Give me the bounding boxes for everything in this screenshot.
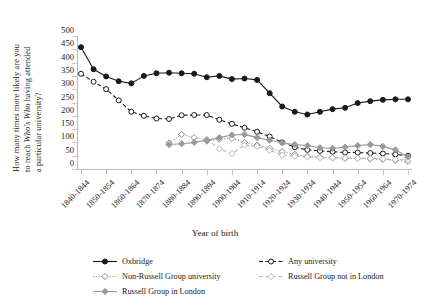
data-point-marker [254,135,260,141]
data-point-marker [367,155,373,161]
legend-key-icon [258,256,284,267]
data-point-marker [154,116,159,121]
data-point-marker [343,105,348,110]
data-point-marker [305,112,310,117]
data-point-marker [204,75,209,80]
data-point-marker [192,71,197,76]
data-point-marker [342,144,348,150]
data-point-marker [104,74,109,79]
data-point-marker [179,131,185,137]
data-point-marker [255,77,260,82]
data-point-marker [179,141,185,147]
legend-item[interactable]: Russell Group in London [92,286,205,297]
series-4 [166,131,411,160]
data-point-marker [141,113,146,118]
legend-item-label: Any university [288,257,337,266]
data-point-marker [317,154,323,160]
data-point-marker [392,147,398,153]
data-point-marker [380,143,386,149]
data-point-marker [355,150,360,155]
line-chart: How many times more likely are you to re… [0,0,430,302]
data-point-marker [102,288,108,294]
data-point-marker [304,142,310,148]
data-point-marker [129,81,134,86]
legend-item-label: Russell Group in London [122,287,205,296]
data-point-marker [154,71,159,76]
data-point-marker [268,273,274,279]
data-point-marker [179,71,184,76]
data-point-marker [380,156,386,162]
y-axis-title-line-2-pre: to reach [23,142,32,172]
data-point-marker [393,97,398,102]
legend-item[interactable]: Any university [258,256,337,267]
data-point-marker [91,79,96,84]
plot-area [78,36,411,169]
data-point-marker [368,99,373,104]
legend-item[interactable]: Non-Russell Group university [92,271,221,282]
data-point-marker [267,91,272,96]
data-point-marker [242,76,247,81]
data-point-marker [204,113,209,118]
legend-key-icon [92,256,118,267]
legend-item[interactable]: Russell Group not in London [258,271,384,282]
data-point-marker [79,71,84,76]
data-point-marker [367,141,373,147]
data-point-marker [292,109,297,114]
data-point-marker [216,146,222,152]
data-point-marker [191,139,197,145]
data-point-marker [280,104,285,109]
legend-key-icon [92,271,118,282]
data-point-marker [355,101,360,106]
series-0 [79,45,411,117]
data-point-marker [104,87,109,92]
chart-legend: OxbridgeAny universityNon-Russell Group … [92,256,430,300]
y-axis-title-line-2-post: having attended [23,47,32,104]
y-axis-title-line-2: to reach Who's Who having attended [22,47,34,172]
data-point-marker [79,45,84,50]
data-point-marker [192,113,197,118]
legend-item-label: Oxbridge [122,257,153,266]
y-axis-title-line-3: a particular university? [33,92,45,172]
data-point-marker [91,67,96,72]
data-point-marker [317,109,322,114]
data-point-marker [355,155,361,161]
data-point-marker [242,125,247,130]
data-point-marker [141,73,146,78]
data-point-marker [255,129,260,134]
data-point-marker [102,273,108,279]
data-point-marker [129,109,134,114]
data-point-marker [179,113,184,118]
x-axis-tick-labels: 1840-18441850-18541860-18641870-18741880… [0,176,430,226]
y-axis-title-line-1: How many times more likely are you [11,44,23,172]
legend-item-label: Non-Russell Group university [122,272,221,281]
data-point-marker [269,259,274,264]
legend-key-icon [258,271,284,282]
data-point-marker [241,131,247,137]
x-axis-ticks [77,169,412,176]
y-axis-title-whos-who: Who's Who [23,104,32,143]
data-point-marker [355,142,361,148]
legend-item[interactable]: Oxbridge [92,256,153,267]
data-point-marker [116,79,121,84]
data-point-marker [380,97,385,102]
data-point-marker [116,98,121,103]
data-point-marker [229,77,234,82]
x-axis-title: Year of birth [0,228,430,238]
data-point-marker [330,107,335,112]
y-axis-title: How many times more likely are you to re… [0,0,46,180]
data-point-marker [217,117,222,122]
y-tick-label: 500 [61,25,74,35]
data-point-marker [167,70,172,75]
data-point-marker [229,121,234,126]
data-point-marker [103,259,108,264]
data-point-marker [217,73,222,78]
data-point-marker [229,150,235,156]
series-2 [166,131,411,164]
data-point-marker [406,97,411,102]
data-point-marker [167,116,172,121]
legend-key-icon [92,286,118,297]
data-point-marker [342,155,348,161]
legend-item-label: Russell Group not in London [288,272,384,281]
data-point-marker [329,155,335,161]
